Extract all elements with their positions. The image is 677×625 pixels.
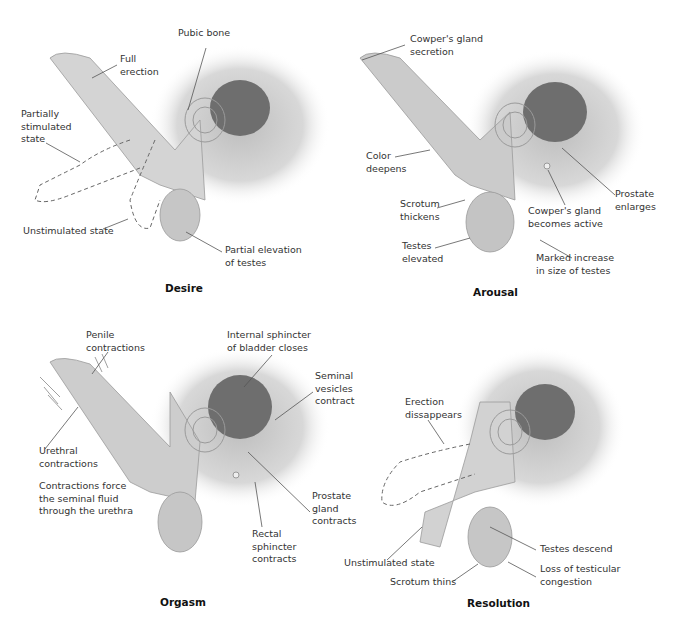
panel-title-desire: Desire: [165, 282, 203, 294]
label-urethral-contractions: Urethral contractions: [39, 445, 98, 470]
label-penile-contractions: Penile contractions: [86, 329, 145, 354]
label-internal-sphincter: Internal sphincter of bladder closes: [227, 329, 311, 354]
panel-resolution: Erection dissappears Unstimulated state …: [340, 312, 677, 624]
label-rectal-sphincter: Rectal sphincter contracts: [252, 528, 296, 566]
label-marked-increase-testes: Marked increase in size of testes: [536, 252, 614, 277]
label-color-deepens: Color deepens: [366, 150, 407, 175]
label-unstimulated-state: Unstimulated state: [344, 557, 435, 570]
label-cowpers-gland-active: Cowper's gland becomes active: [528, 205, 603, 230]
label-pubic-bone: Pubic bone: [178, 27, 230, 40]
label-testes-elevated: Testes elevated: [402, 240, 443, 265]
label-partially-stimulated: Partially stimulated state: [21, 108, 72, 146]
panel-arousal: Cowper's gland secretion Color deepens S…: [340, 0, 677, 312]
label-loss-testicular-congestion: Loss of testicular congestion: [540, 563, 621, 588]
label-testes-descend: Testes descend: [540, 543, 612, 556]
label-scrotum-thins: Scrotum thins: [390, 576, 456, 589]
label-full-erection: Full erection: [120, 53, 159, 78]
label-seminal-fluid-note: Contractions force the seminal fluid thr…: [39, 480, 133, 518]
panel-title-orgasm: Orgasm: [160, 596, 206, 608]
label-erection-disappears: Erection dissappears: [405, 396, 462, 421]
label-partial-elevation: Partial elevation of testes: [225, 244, 302, 269]
label-unstimulated-state: Unstimulated state: [23, 225, 114, 238]
panel-desire: Pubic bone Full erection Partially stimu…: [0, 0, 338, 312]
panel-orgasm: Penile contractions Internal sphincter o…: [0, 312, 338, 624]
label-prostate-enlarges: Prostate enlarges: [615, 188, 656, 213]
panel-title-arousal: Arousal: [473, 286, 518, 298]
label-cowpers-gland-secretion: Cowper's gland secretion: [410, 33, 483, 58]
label-scrotum-thickens: Scrotum thickens: [400, 198, 440, 223]
panel-title-resolution: Resolution: [467, 597, 530, 609]
